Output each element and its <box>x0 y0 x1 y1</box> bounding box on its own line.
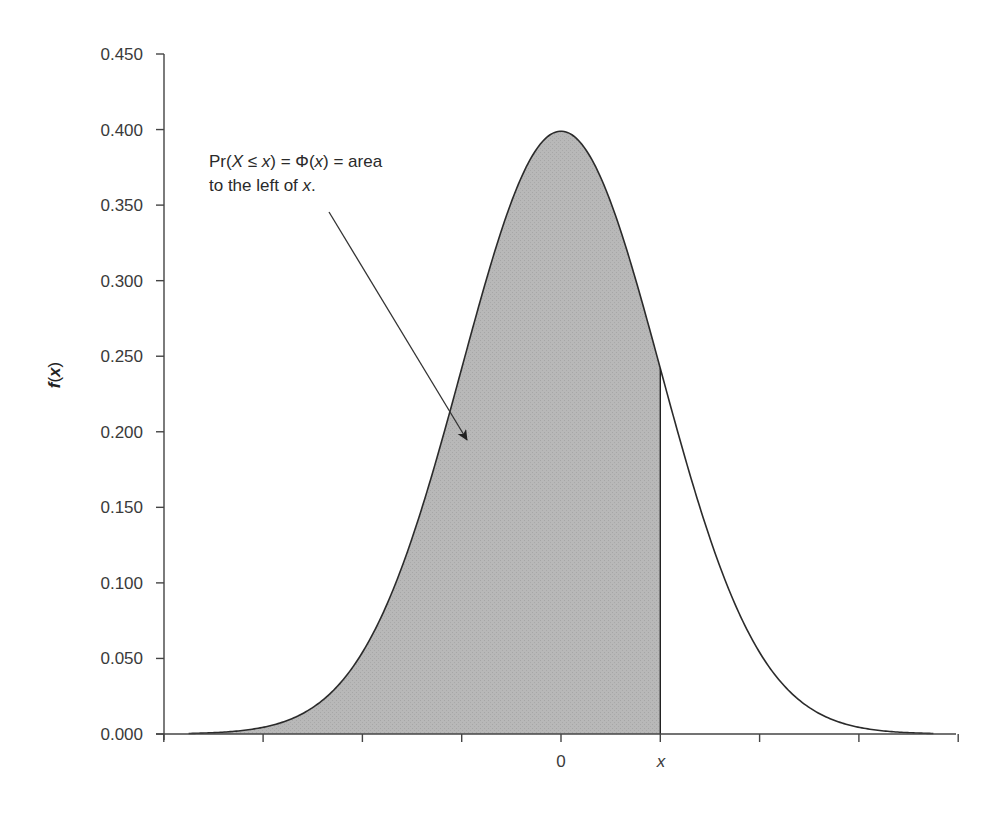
y-tick-label: 0.350 <box>100 196 143 215</box>
y-tick-label: 0.200 <box>100 423 143 442</box>
y-axis-ticks: 0.0000.0500.1000.1500.2000.2500.3000.350… <box>100 45 164 744</box>
y-axis-label: f(x) <box>45 362 64 388</box>
y-tick-label: 0.100 <box>100 574 143 593</box>
y-tick-label: 0.400 <box>100 121 143 140</box>
shaded-area-left-of-x <box>189 131 661 734</box>
x-axis-ticks <box>164 734 958 742</box>
y-tick-label: 0.050 <box>100 649 143 668</box>
x-tick-label-x: x <box>656 752 666 771</box>
annotation-line-1: Pr(X ≤ x) = Φ(x) = area <box>209 152 383 171</box>
y-tick-label: 0.250 <box>100 347 143 366</box>
annotation-line-2: to the left of x. <box>209 176 316 195</box>
x-tick-label-zero: 0 <box>556 752 565 771</box>
y-tick-label: 0.450 <box>100 45 143 64</box>
annotation-arrow <box>329 212 467 440</box>
y-tick-label: 0.150 <box>100 498 143 517</box>
y-tick-label: 0.000 <box>100 725 143 744</box>
normal-distribution-chart: 0.0000.0500.1000.1500.2000.2500.3000.350… <box>0 0 1005 815</box>
y-tick-label: 0.300 <box>100 272 143 291</box>
